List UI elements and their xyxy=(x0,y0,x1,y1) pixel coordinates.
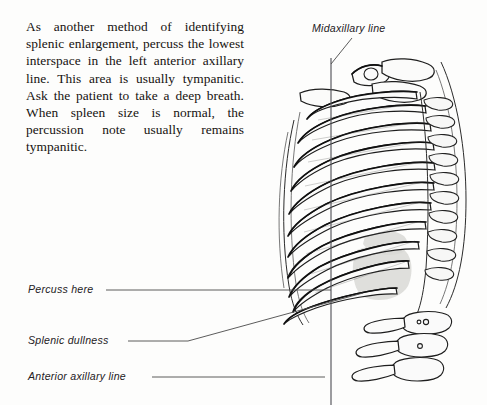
figure-page: As another method of identifying splenic… xyxy=(0,0,487,405)
label-anterior-axillary-line: Anterior axillary line xyxy=(28,370,126,382)
lumbar-vertebrae xyxy=(352,312,452,382)
splenic-dullness-leader-line xyxy=(128,293,363,341)
shoulder-girdle xyxy=(300,59,434,107)
label-midaxillary-line: Midaxillary line xyxy=(312,22,385,34)
label-percuss-here: Percuss here xyxy=(28,283,93,295)
midaxillary-leader-line xyxy=(331,38,352,64)
label-splenic-dullness: Splenic dullness xyxy=(28,334,109,346)
